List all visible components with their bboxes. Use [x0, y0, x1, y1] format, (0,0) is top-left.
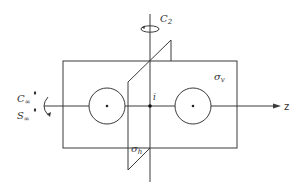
sigma-v-label: σv — [214, 71, 225, 84]
sigma-h-label: σh — [131, 143, 142, 156]
left-atom-nucleus — [106, 105, 109, 108]
z-axis-label: z — [284, 101, 289, 112]
c-inf-label: C∞ — [17, 93, 31, 106]
symmetry-diagram: C2 σv σh i C∞ S∞ z — [0, 0, 301, 195]
c2-label: C2 — [160, 13, 173, 26]
c-inf-rotation-icon — [44, 97, 51, 117]
inversion-label: i — [153, 92, 156, 102]
inversion-center — [148, 104, 152, 108]
s-inf-label: S∞ — [17, 110, 30, 123]
z-axis-arrowhead — [273, 104, 281, 109]
right-atom-nucleus — [192, 105, 195, 108]
